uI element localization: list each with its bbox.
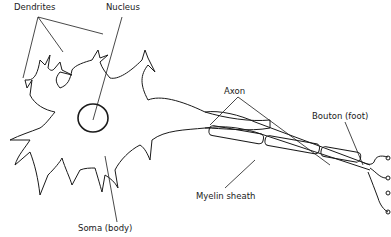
label-myelin-sheath: Myelin sheath	[196, 192, 255, 201]
neuron-diagram: Dendrites Nucleus Axon Bouton (foot) Mye…	[0, 0, 391, 237]
label-bouton: Bouton (foot)	[312, 112, 368, 121]
label-nucleus: Nucleus	[106, 3, 140, 12]
axon-terminal	[362, 156, 388, 212]
dendrites-leader	[23, 17, 38, 78]
bouton	[386, 191, 390, 195]
bouton	[386, 176, 390, 180]
soma-outline	[10, 50, 270, 195]
dendrites-leader	[38, 17, 103, 34]
myelin-leader	[225, 160, 255, 188]
axon-leader	[210, 97, 238, 125]
label-dendrites: Dendrites	[14, 3, 55, 12]
label-soma: Soma (body)	[78, 224, 132, 233]
nucleus-shape	[78, 104, 108, 132]
soma-leader	[105, 156, 117, 222]
label-axon: Axon	[224, 87, 245, 96]
